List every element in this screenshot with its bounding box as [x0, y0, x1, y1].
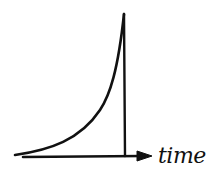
vertical-drop-line: [124, 14, 125, 156]
exponential-curve: [15, 14, 124, 155]
arrowhead-icon: [137, 151, 152, 161]
time-axis-line: [23, 156, 142, 157]
time-axis-label: time: [158, 143, 206, 168]
